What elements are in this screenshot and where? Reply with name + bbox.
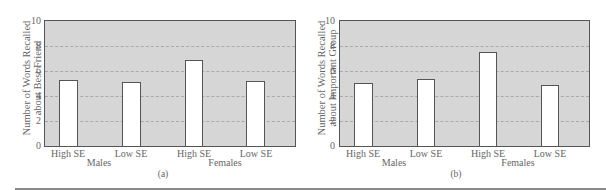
- y-axis-label-line1: Number of Words Recalled: [21, 8, 32, 148]
- bar-males-low-se: [417, 79, 435, 146]
- y-tick-6: 6: [321, 66, 335, 76]
- x-group-females: Females: [501, 157, 534, 168]
- y-tick-2: 2: [321, 116, 335, 126]
- plot-area: [339, 20, 590, 147]
- x-label-males-high-se: High SE: [346, 148, 380, 159]
- bar-males-high-se: [354, 83, 373, 146]
- y-tick-0: 0: [27, 141, 41, 151]
- y-tick-8: 8: [27, 41, 41, 51]
- bar-females-high-se: [185, 60, 203, 146]
- panel-caption: (a): [158, 169, 169, 179]
- bar-males-high-se: [59, 80, 78, 146]
- bar-females-high-se: [479, 52, 497, 146]
- y-tick-8: 8: [321, 41, 335, 51]
- y-tick-6: 6: [27, 66, 41, 76]
- y-tick-10: 10: [321, 16, 335, 26]
- y-axis-label: Number of Words Recalled about Best Frie…: [21, 8, 45, 148]
- x-group-males: Males: [87, 157, 111, 168]
- y-axis-label-line1: Number of Words Recalled: [316, 8, 327, 148]
- x-label-males-high-se: High SE: [51, 148, 85, 159]
- y-tick-10: 10: [27, 16, 41, 26]
- panel-caption: (b): [450, 169, 461, 179]
- x-group-males: Males: [382, 157, 406, 168]
- bar-males-low-se: [122, 82, 141, 146]
- x-label-females-low-se: Low SE: [534, 148, 567, 159]
- bar-females-low-se: [246, 81, 265, 146]
- gridline-8: [340, 46, 589, 47]
- chart-panel-a: Number of Words Recalled about Best Frie…: [0, 0, 303, 186]
- y-tick-0: 0: [321, 141, 335, 151]
- y-axis-label-line2: about Important Group: [327, 8, 338, 148]
- gridline-8: [45, 46, 295, 47]
- y-tick-4: 4: [321, 91, 335, 101]
- x-label-females-low-se: Low SE: [240, 148, 273, 159]
- chart-panel-b: Number of Words Recalled about Important…: [295, 0, 598, 186]
- x-label-males-low-se: Low SE: [410, 148, 443, 159]
- x-group-females: Females: [208, 157, 241, 168]
- y-axis-label: Number of Words Recalled about Important…: [316, 8, 340, 148]
- x-label-females-high-se: High SE: [177, 148, 211, 159]
- x-label-females-high-se: High SE: [471, 148, 505, 159]
- plot-area: [44, 20, 296, 147]
- y-tick-4: 4: [27, 91, 41, 101]
- bottom-rule: [15, 188, 606, 190]
- gridline-6: [340, 71, 589, 72]
- x-label-males-low-se: Low SE: [115, 148, 148, 159]
- y-tick-2: 2: [27, 116, 41, 126]
- gridline-6: [45, 71, 295, 72]
- y-axis-label-line2: about Best Friend: [32, 8, 43, 148]
- bar-females-low-se: [541, 85, 559, 146]
